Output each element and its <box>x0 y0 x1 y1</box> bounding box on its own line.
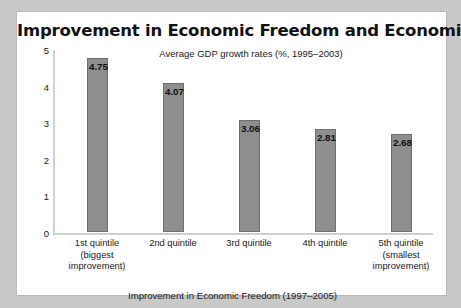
bar[interactable]: 4.07 <box>163 83 184 232</box>
bar[interactable]: 3.06 <box>239 120 260 232</box>
category-label-line: improvement) <box>356 261 446 273</box>
bar-value-label: 2.81 <box>304 132 349 143</box>
category-label-line: (biggest <box>52 250 142 262</box>
bar-slot: 3.06 <box>211 49 287 232</box>
bar-slot: 2.68 <box>363 49 439 232</box>
bar-slot: 2.81 <box>287 49 363 232</box>
y-tick-1: 1 <box>25 192 49 202</box>
category-label: 5th quintile(smallestimprovement) <box>356 238 446 273</box>
x-axis-title: Improvement in Economic Freedom (1997–20… <box>17 290 448 301</box>
bar-value-label: 4.75 <box>76 61 121 72</box>
bar[interactable]: 2.68 <box>391 134 412 232</box>
plot-area: 012345 4.754.073.062.812.68 <box>53 50 433 234</box>
bar-slot: 4.07 <box>135 49 211 232</box>
chart-title: Improvement in Economic Freedom and Econ… <box>17 21 448 40</box>
bar-slot: 4.75 <box>59 49 135 232</box>
bar-value-label: 2.68 <box>380 137 425 148</box>
category-label-line: 5th quintile <box>356 238 446 250</box>
x-axis-baseline <box>53 233 433 235</box>
y-tick-5: 5 <box>25 46 49 56</box>
y-axis-line <box>53 50 55 235</box>
y-tick-2: 2 <box>25 156 49 166</box>
bar[interactable]: 2.81 <box>315 129 336 232</box>
category-label-line: (smallest <box>356 250 446 262</box>
y-tick-4: 4 <box>25 83 49 93</box>
bar[interactable]: 4.75 <box>87 58 108 232</box>
chart-card: Improvement in Economic Freedom and Econ… <box>16 11 447 296</box>
chart-page: Improvement in Economic Freedom and Econ… <box>0 0 461 308</box>
bar-value-label: 4.07 <box>152 86 197 97</box>
y-tick-0: 0 <box>25 229 49 239</box>
category-label-line: improvement) <box>52 261 142 273</box>
y-tick-3: 3 <box>25 119 49 129</box>
bar-value-label: 3.06 <box>228 123 273 134</box>
